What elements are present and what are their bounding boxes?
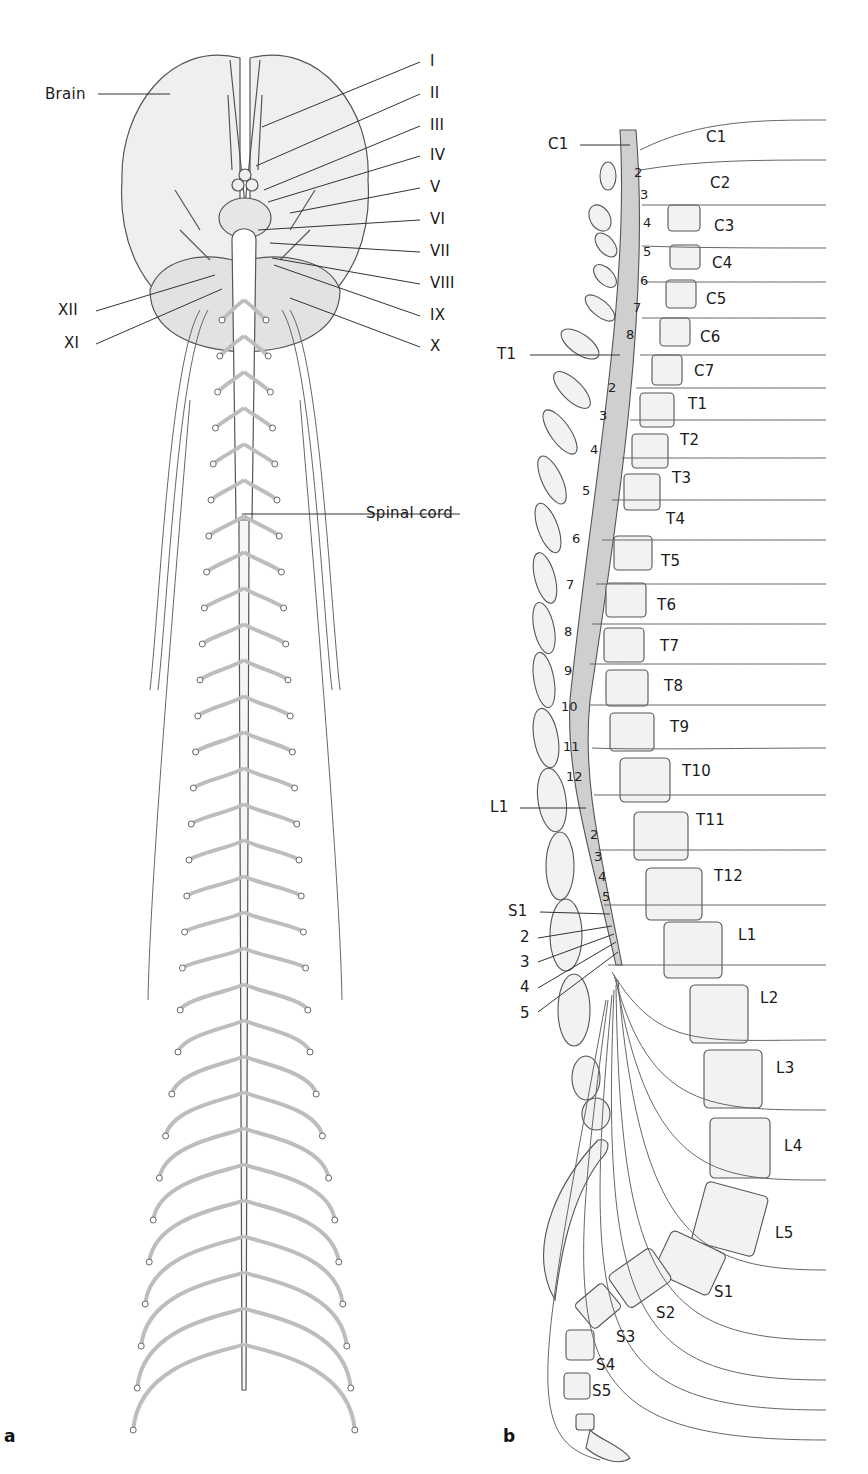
cord-callout-t1: T1 (497, 347, 516, 362)
vertebra-s1: S1 (714, 1285, 734, 1300)
cord-seg-c8: 8 (626, 328, 634, 341)
cord-seg-t11: 11 (563, 740, 580, 753)
cord-seg-t3: 3 (599, 409, 607, 422)
vertebra-c5: C5 (706, 292, 727, 307)
vertebra-c2: C2 (710, 176, 731, 191)
vertebra-c6: C6 (700, 330, 721, 345)
cord-callout-s4: 4 (520, 980, 530, 995)
cranial-nerve-ii-label: II (430, 86, 439, 101)
cord-callout-c1: C1 (548, 137, 569, 152)
cranial-nerve-x-label: X (430, 339, 441, 354)
cranial-nerve-vi-label: VI (430, 212, 445, 227)
vertebra-t7: T7 (660, 639, 679, 654)
cord-seg-c6: 6 (640, 274, 648, 287)
cord-seg-c3: 3 (640, 188, 648, 201)
cranial-nerve-iii-label: III (430, 118, 444, 133)
vertebra-t5: T5 (661, 554, 680, 569)
vertebra-c4: C4 (712, 256, 733, 271)
cord-seg-t2: 2 (608, 381, 616, 394)
cord-callout-s1: S1 (508, 904, 528, 919)
cord-seg-l2: 2 (590, 828, 598, 841)
cranial-nerve-vii-label: VII (430, 244, 450, 259)
vertebra-l2: L2 (760, 991, 779, 1006)
vertebra-t6: T6 (657, 598, 676, 613)
vertebra-t2: T2 (680, 433, 699, 448)
vertebra-t11: T11 (696, 813, 725, 828)
cord-seg-t12: 12 (566, 770, 583, 783)
vertebra-l1: L1 (738, 928, 757, 943)
cranial-nerve-viii-label: VIII (430, 276, 455, 291)
cord-seg-c5: 5 (643, 245, 651, 258)
vertebra-t12: T12 (714, 869, 743, 884)
cord-seg-t8: 8 (564, 625, 572, 638)
vertebra-t4: T4 (666, 512, 685, 527)
cord-seg-c7: 7 (633, 301, 641, 314)
cranial-nerve-xi-label: XI (64, 336, 79, 351)
cord-callout-s3: 3 (520, 955, 530, 970)
cord-seg-c2: 2 (634, 166, 642, 179)
vertebra-t10: T10 (682, 764, 711, 779)
cord-seg-t4: 4 (590, 443, 598, 456)
vertebra-l4: L4 (784, 1139, 803, 1154)
cranial-nerve-v-label: V (430, 180, 441, 195)
vertebra-t9: T9 (670, 720, 689, 735)
vertebra-c7: C7 (694, 364, 715, 379)
vertebra-l3: L3 (776, 1061, 795, 1076)
vertebra-c3: C3 (714, 219, 735, 234)
cord-callout-l1: L1 (490, 800, 509, 815)
cord-seg-t7: 7 (566, 578, 574, 591)
panel-b-letter: b (503, 1426, 515, 1446)
cord-callout-s2: 2 (520, 930, 530, 945)
vertebra-s3: S3 (616, 1330, 636, 1345)
vertebra-s5: S5 (592, 1384, 612, 1399)
panel-a-letter: a (4, 1426, 15, 1446)
vertebra-c1: C1 (706, 130, 727, 145)
cord-seg-t6: 6 (572, 532, 580, 545)
cord-seg-c4: 4 (643, 216, 651, 229)
cord-seg-t9: 9 (564, 664, 572, 677)
cranial-nerve-xii-label: XII (58, 303, 78, 318)
brain-label: Brain (45, 87, 86, 102)
vertebra-t3: T3 (672, 471, 691, 486)
cord-seg-t10: 10 (561, 700, 578, 713)
vertebra-t8: T8 (664, 679, 683, 694)
cord-seg-l5: 5 (602, 890, 610, 903)
cranial-nerve-iv-label: IV (430, 148, 445, 163)
vertebra-s4: S4 (596, 1358, 616, 1373)
vertebra-t1: T1 (688, 397, 707, 412)
cord-seg-l3: 3 (594, 850, 602, 863)
spinal-cord-label: Spinal cord (366, 506, 453, 521)
cranial-nerve-i-label: I (430, 54, 435, 69)
cord-seg-l4: 4 (598, 870, 606, 883)
cord-seg-t5: 5 (582, 484, 590, 497)
vertebra-l5: L5 (775, 1226, 794, 1241)
vertebra-s2: S2 (656, 1306, 676, 1321)
cranial-nerve-ix-label: IX (430, 308, 445, 323)
cord-callout-s5: 5 (520, 1006, 530, 1021)
